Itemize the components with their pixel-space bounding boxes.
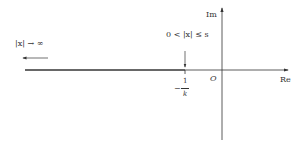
fraction-bar	[181, 88, 189, 89]
real-axis-label: Re	[280, 76, 291, 84]
origin-label: O	[210, 75, 217, 83]
fraction-numerator: 1	[183, 78, 187, 85]
imag-axis-label: Im	[206, 11, 217, 19]
annotation-near: 0 < |x| ≤ s	[166, 31, 209, 39]
annotation-far: |x| → ∞	[15, 40, 43, 48]
point-label-fraction: − 1 k	[174, 77, 196, 101]
diagram-canvas	[0, 0, 306, 149]
fraction-denominator: k	[183, 91, 187, 98]
fraction-sign: −	[174, 85, 181, 93]
